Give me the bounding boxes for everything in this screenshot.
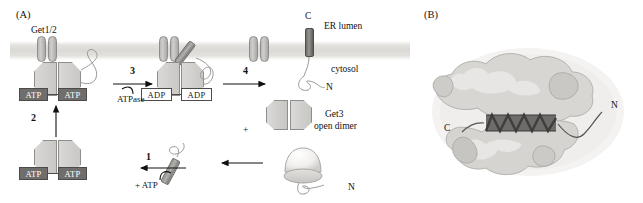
atp-box-cytosolic-left: ATP bbox=[19, 167, 48, 180]
panel-b-lower-left-knob bbox=[453, 137, 477, 163]
inserted-ta-tail bbox=[299, 57, 325, 90]
get3-open-dimer-label-line1: Get3 bbox=[325, 110, 343, 120]
plus-sign: + bbox=[243, 126, 248, 136]
get2-helix-3 bbox=[260, 36, 269, 62]
get2-helix-1 bbox=[48, 36, 57, 62]
get3-open-dimer-left bbox=[266, 100, 288, 130]
step-2-number: 2 bbox=[31, 113, 36, 123]
step-3-annotation: ATPase bbox=[117, 95, 145, 104]
er-membrane-band bbox=[10, 41, 410, 60]
get1-helix-1 bbox=[37, 36, 46, 62]
panel-b-lower-highlight bbox=[465, 139, 522, 159]
panel-b-n-terminus-label: N bbox=[611, 101, 618, 111]
inserted-ta-n-terminus-label: N bbox=[326, 83, 333, 93]
step-4-number: 4 bbox=[243, 66, 248, 76]
free-ta-protein bbox=[160, 157, 181, 185]
ribosome-nascent-chain-n-label: N bbox=[348, 183, 355, 193]
ribosome-nascent-chain bbox=[298, 183, 324, 194]
panel-b-n-terminal-trace bbox=[558, 112, 602, 137]
panel-b-upper-highlight bbox=[451, 68, 540, 96]
vector-overlay bbox=[0, 0, 643, 203]
inserted-ta-c-terminus-label: C bbox=[305, 12, 311, 22]
panel-b-c-terminus-label: C bbox=[444, 124, 450, 134]
panel-a-label: (A) bbox=[16, 10, 31, 21]
panel-b-left-knob bbox=[433, 76, 453, 97]
atp-box-cytosolic-right: ATP bbox=[58, 167, 87, 180]
get1-helix-3 bbox=[249, 36, 258, 62]
step-1-number: 1 bbox=[146, 152, 151, 162]
panel-b-c-terminal-trace bbox=[462, 123, 484, 132]
free-ta-tail-squiggle bbox=[169, 143, 184, 157]
er-lumen-label: ER lumen bbox=[324, 22, 362, 32]
atp-box-membrane-left: ATP bbox=[19, 88, 48, 101]
panel-b-bound-helix bbox=[486, 115, 556, 131]
ribosome-small-subunit bbox=[284, 169, 322, 183]
panel-b-structure bbox=[432, 48, 624, 176]
ribosome-large-subunit bbox=[285, 148, 321, 172]
figure-root: (A) Get1/2 ATP ATP ADP ADP C N ER lumen … bbox=[0, 0, 643, 203]
get3-open-dimer-right bbox=[290, 100, 312, 130]
nucleotide-link-3 bbox=[48, 173, 58, 174]
cytosol-label: cytosol bbox=[331, 65, 358, 75]
atp-box-membrane-right: ATP bbox=[58, 88, 87, 101]
panel-b-lower-right-knob bbox=[533, 146, 555, 166]
step-1-annotation: + ATP bbox=[135, 181, 158, 190]
get3-open-dimer-label-line2: open dimer bbox=[314, 122, 357, 132]
panel-b-lower-lobe bbox=[446, 121, 578, 175]
nucleotide-link-1 bbox=[48, 94, 58, 95]
ribosome bbox=[284, 148, 324, 194]
panel-b-upper-knob bbox=[549, 73, 578, 100]
get1-helix-2 bbox=[159, 36, 168, 62]
panel-b-upper-lobe bbox=[436, 54, 593, 123]
panel-b-label: (B) bbox=[424, 10, 438, 21]
inserted-ta-protein-helix bbox=[305, 28, 314, 57]
nucleotide-link-2 bbox=[172, 94, 181, 95]
get1-2-label: Get1/2 bbox=[31, 26, 57, 36]
adp-box-right: ADP bbox=[181, 88, 212, 101]
adp-box-left: ADP bbox=[141, 88, 172, 101]
step-3-number: 3 bbox=[130, 66, 135, 76]
